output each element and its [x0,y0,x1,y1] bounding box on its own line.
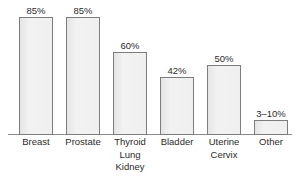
bar-uterine-cervix [207,65,241,135]
bar-chart: 85% Breast 85% Prostate 60% Thyroid Lung… [0,0,300,183]
bar-value-label: 85% [56,5,110,16]
category-label-line: Cervix [195,149,253,162]
bar-prostate [66,17,100,135]
bar-column-other: 3–10% Other [248,0,294,183]
bar-value-label: 42% [150,65,204,76]
bar-bladder [160,77,194,135]
category-label-other: Other [242,136,300,149]
bar-column-thyroid-lung-kidney: 60% Thyroid Lung Kidney [107,0,153,183]
category-label-line: Lung [101,149,159,162]
category-label-line: Kidney [101,161,159,174]
plot-area: 85% Breast 85% Prostate 60% Thyroid Lung… [0,0,300,183]
bar-value-label: 50% [197,53,251,64]
bar-value-label: 60% [103,40,157,51]
bar-other [254,120,288,135]
category-label-line: Other [242,136,300,149]
bar-column-uterine-cervix: 50% Uterine Cervix [201,0,247,183]
bar-column-breast: 85% Breast [13,0,59,183]
bar-value-label: 3–10% [244,108,298,119]
bar-value-label: 85% [9,5,63,16]
bar-thyroid-lung-kidney [113,52,147,135]
bar-breast [19,17,53,135]
bar-column-prostate: 85% Prostate [60,0,106,183]
bar-column-bladder: 42% Bladder [154,0,200,183]
